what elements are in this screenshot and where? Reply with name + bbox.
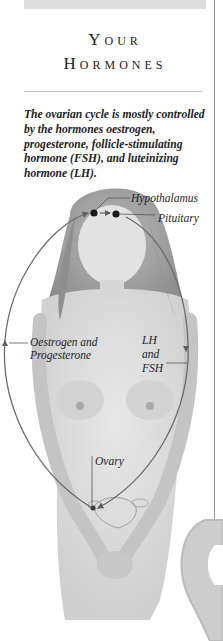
title-divider [24,91,202,92]
label-oestrogen-progesterone: Oestrogen and Progesterone [30,336,98,361]
face [78,205,146,285]
figure-illustration [0,170,223,641]
label-oestrogen-line2: Progesterone [30,349,98,362]
label-oestrogen-line1: Oestrogen and [30,336,98,349]
hormone-cycle-figure: Hypothalamus Pituitary Oestrogen and Pro… [0,170,223,641]
label-lh-fsh: LH and FSH [142,333,163,375]
pituitary-dot [112,210,119,217]
title-line-1: Your [24,28,206,52]
label-hypothalamus: Hypothalamus [131,192,198,205]
hypothalamus-dot [90,209,97,216]
label-ovary: Ovary [95,455,124,468]
label-lh-line2: and [142,347,163,361]
label-lh-line1: LH [142,333,163,347]
label-pituitary: Pituitary [158,212,199,225]
header-band [24,0,206,9]
page-title: Your Hormones [24,28,206,76]
label-lh-line3: FSH [142,361,163,375]
ovary-dot [91,506,96,511]
title-line-2: Hormones [24,52,206,76]
